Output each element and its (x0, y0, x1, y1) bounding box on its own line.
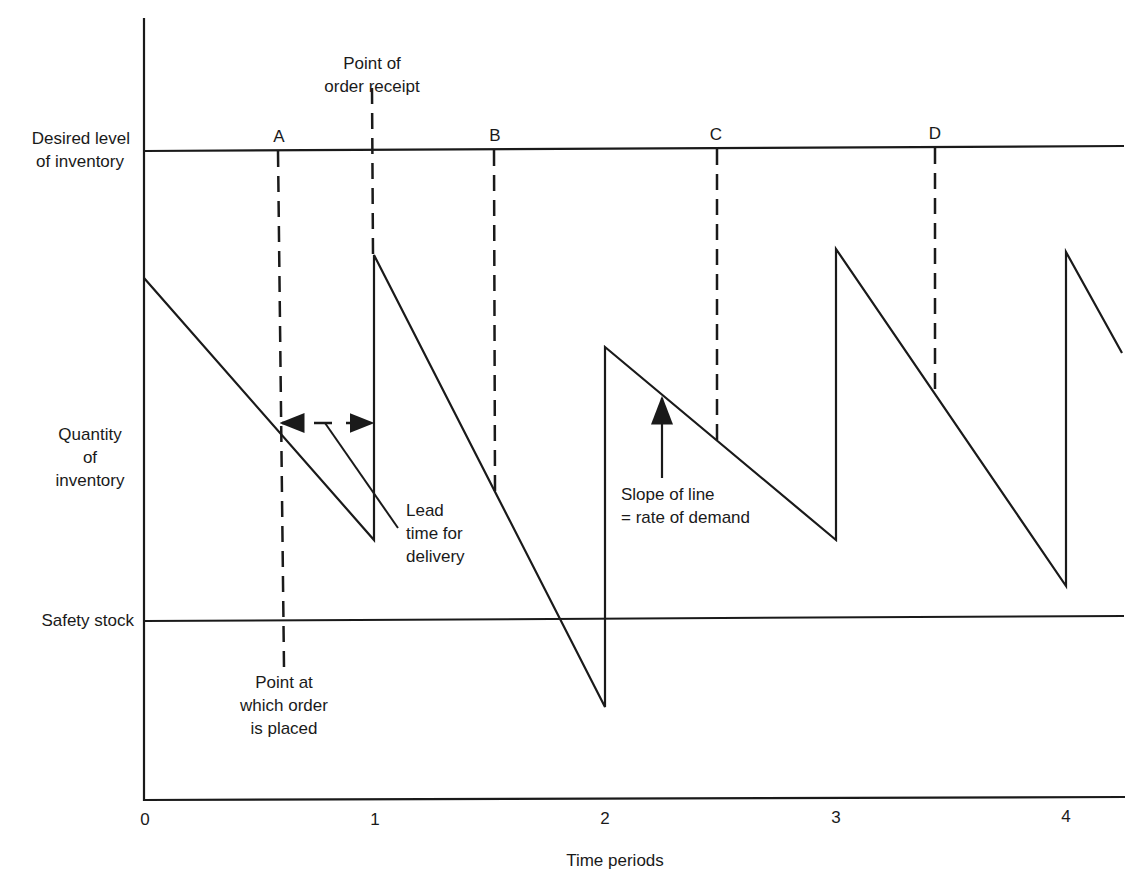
marker-a: A (273, 127, 285, 146)
slope-note-2: = rate of demand (621, 508, 750, 527)
inventory-level-line (144, 249, 1122, 707)
y-axis-label-2: of (83, 448, 97, 467)
receipt-note-2: order receipt (324, 77, 420, 96)
desired-level-line (144, 146, 1124, 151)
inventory-diagram: Desired level of inventory Safety stock … (0, 0, 1131, 871)
desired-level-label-2: of inventory (36, 152, 124, 171)
order-point-a-dashed (278, 151, 284, 667)
x-tick-4: 4 (1061, 807, 1070, 826)
x-tick-3: 3 (831, 808, 840, 827)
slope-note-1: Slope of line (621, 485, 715, 504)
x-tick-1: 1 (370, 810, 379, 829)
x-axis (143, 797, 1125, 800)
lead-note-3: delivery (406, 547, 465, 566)
y-axis-label-3: inventory (56, 471, 125, 490)
x-axis-label: Time periods (566, 851, 664, 870)
safety-stock-label: Safety stock (41, 611, 134, 630)
marker-d: D (929, 124, 941, 143)
receipt-note-1: Point of (343, 54, 401, 73)
placed-note-1: Point at (255, 673, 313, 692)
order-receipt-dashed (372, 88, 373, 255)
marker-c: C (710, 125, 722, 144)
lead-time-leader (325, 423, 398, 528)
placed-note-2: which order (239, 696, 328, 715)
order-point-b-dashed (494, 150, 495, 492)
safety-stock-line (144, 616, 1124, 621)
lead-note-1: Lead (406, 501, 444, 520)
placed-note-3: is placed (250, 719, 317, 738)
lead-note-2: time for (406, 524, 463, 543)
marker-b: B (489, 126, 500, 145)
desired-level-label-1: Desired level (32, 129, 130, 148)
y-axis-label-1: Quantity (58, 425, 122, 444)
x-tick-2: 2 (600, 809, 609, 828)
x-tick-0: 0 (140, 810, 149, 829)
